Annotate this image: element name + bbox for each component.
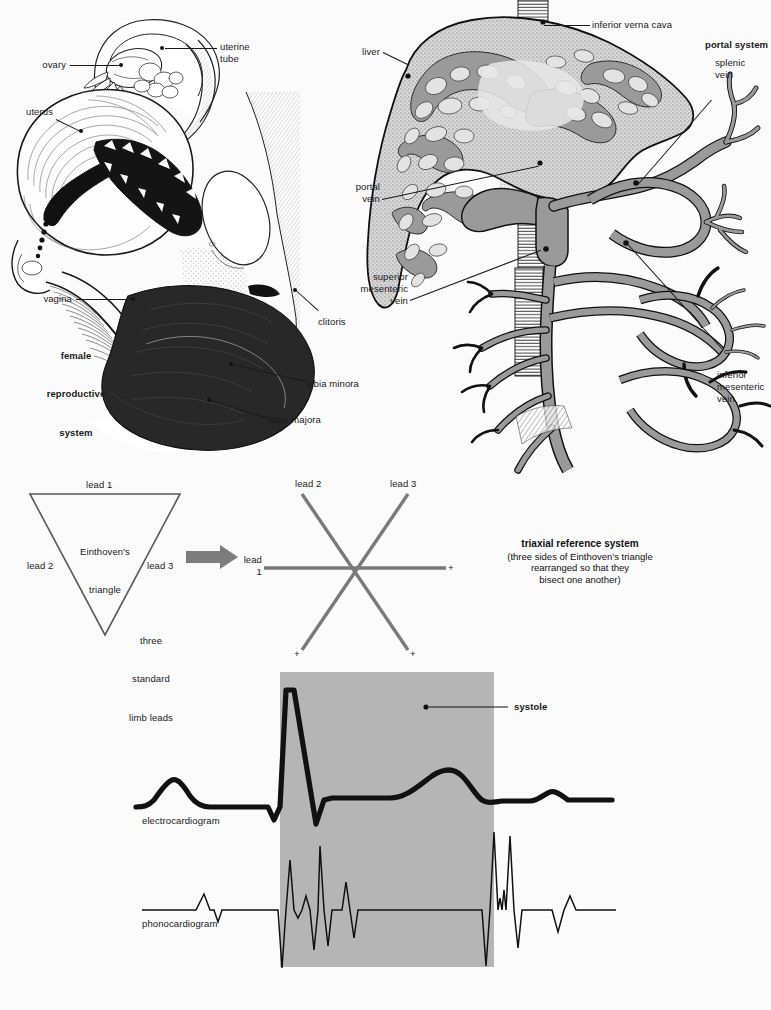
label-triaxial-lead-1-line1: lead	[228, 554, 262, 565]
triaxial-axes-svg	[240, 470, 470, 670]
plus-marker-lead-1: +	[448, 562, 454, 573]
systole-highlight-box	[280, 672, 494, 967]
einthoven-title-line2: triangle	[55, 584, 155, 597]
plus-marker-lead-3: +	[294, 648, 300, 659]
plus-marker-lead-2: +	[410, 648, 416, 659]
label-inferior-mesenteric-line2: mesenteric	[717, 381, 764, 392]
label-portal-vein-line2: vein	[340, 193, 380, 204]
label-uterus: uterus	[26, 106, 53, 117]
label-lead-2: lead 2	[27, 560, 53, 571]
anchor-dot-vagina	[131, 297, 135, 301]
label-inferior-mesenteric-line3: vein	[717, 393, 735, 404]
anchor-dot-smv	[543, 246, 549, 252]
label-triaxial-lead-1-line2: 1	[228, 566, 262, 577]
triaxial-caption-line1: (three sides of Einthoven's triangle	[462, 551, 698, 563]
anchor-dot-liver	[405, 73, 410, 78]
label-splenic-vein-line2: vein	[715, 69, 733, 80]
textbook-page: ovary uterine tube uterus vagina clitori…	[0, 0, 771, 1010]
leader-vagina	[76, 299, 132, 300]
triaxial-caption-line3: bisect one another)	[462, 574, 698, 586]
anchor-dot-ivc	[540, 19, 545, 24]
anchor-dot-systole	[423, 704, 428, 709]
label-electrocardiogram: electrocardiogram	[142, 815, 220, 826]
label-labia-majora: labia majora	[268, 414, 321, 425]
label-triaxial-lead-2: lead 2	[295, 478, 321, 489]
anchor-dot-ovary	[119, 63, 123, 67]
einthoven-footer-line1: three	[113, 635, 189, 648]
anchor-dot-uterine-tube	[160, 46, 164, 50]
title-line-2: reproductive	[24, 388, 128, 401]
title-line-3: system	[24, 427, 128, 440]
label-systole: systole	[514, 701, 547, 712]
label-triaxial-lead-3: lead 3	[390, 478, 416, 489]
label-superior-mesenteric-line3: vein	[340, 295, 408, 306]
triaxial-caption: triaxial reference system (three sides o…	[462, 538, 698, 586]
anchor-dot-labia-majora	[207, 398, 211, 402]
label-inferior-vena-cava: inferior verna cava	[592, 19, 672, 30]
label-uterine-tube-line2: tube	[220, 53, 239, 64]
label-splenic-vein-line1: splenic	[715, 57, 745, 68]
figure-title-female-reproductive: female reproductive system	[24, 324, 128, 465]
triaxial-caption-line2: rearranged so that they	[462, 562, 698, 574]
figure-cardiac-cycle: systole electrocardiogram phonocardiogra…	[110, 660, 670, 990]
figure-title-portal-system: portal system	[705, 39, 768, 50]
label-portal-vein-line1: portal	[340, 181, 380, 192]
figure-triaxial-reference-system: lead 2 lead 3 lead 1 + + +	[240, 470, 470, 670]
anchor-dot-uterus	[79, 129, 83, 133]
leader-ovary	[70, 65, 120, 66]
label-inferior-mesenteric-line1: inferior	[717, 369, 747, 380]
einthoven-title-line1: Einthoven's	[55, 546, 155, 559]
anchor-dot-labia-minora	[229, 362, 233, 366]
label-superior-mesenteric-line2: mesenteric	[340, 283, 408, 294]
leader-uterine-tube	[165, 48, 217, 49]
triaxial-caption-title: triaxial reference system	[462, 538, 698, 551]
leader-inferior-vena-cava	[544, 25, 590, 26]
label-lead-1: lead 1	[86, 479, 112, 490]
label-ovary: ovary	[18, 59, 66, 70]
einthoven-title: Einthoven's triangle	[55, 520, 155, 623]
title-line-1: female	[24, 350, 128, 363]
anchor-dot-clitoris	[293, 288, 297, 292]
label-vagina: vagina	[20, 293, 72, 304]
figure-female-reproductive-system: ovary uterine tube uterus vagina clitori…	[0, 0, 360, 460]
label-phonocardiogram: phonocardiogram	[142, 918, 217, 929]
portal-system-illustration	[340, 0, 771, 470]
label-superior-mesenteric-line1: superior	[340, 271, 408, 282]
figure-portal-system: portal system inferior verna cava liver …	[340, 0, 771, 470]
label-liver: liver	[346, 46, 380, 57]
label-uterine-tube-line1: uterine	[220, 41, 250, 52]
